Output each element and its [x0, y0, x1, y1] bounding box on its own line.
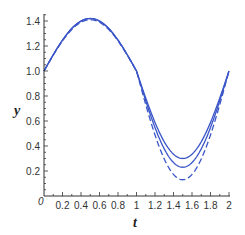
y-tick-label: 1.0 [26, 66, 40, 77]
x-tick-label: 0.4 [74, 200, 88, 211]
series-line-dashed [44, 20, 229, 180]
y-tick-label: 1.2 [26, 41, 40, 52]
x-ticks: 0.20.40.60.811.21.41.61.82 [53, 192, 232, 211]
y-tick-label: 0.2 [26, 166, 40, 177]
x-tick-label: 0.6 [93, 200, 107, 211]
x-tick-label: 2 [226, 200, 232, 211]
origin-label: 0 [38, 196, 44, 207]
y-ticks: 0.20.40.60.81.01.21.4 [26, 15, 48, 190]
y-tick-label: 0.8 [26, 91, 40, 102]
y-tick-label: 1.4 [26, 16, 40, 27]
line-chart: 0.20.40.60.81.01.21.4 0.20.40.60.811.21.… [0, 0, 245, 235]
y-tick-label: 0.4 [26, 141, 40, 152]
y-tick-label: 0.6 [26, 116, 40, 127]
x-tick-label: 1 [134, 200, 140, 211]
x-tick-label: 1.6 [185, 200, 199, 211]
x-tick-label: 1.4 [167, 200, 181, 211]
x-tick-label: 1.2 [148, 200, 162, 211]
y-axis-label: y [12, 103, 21, 118]
x-tick-label: 1.8 [204, 200, 218, 211]
x-tick-label: 0.2 [56, 200, 70, 211]
x-tick-label: 0.8 [111, 200, 125, 211]
series-line-solid-lower [44, 19, 229, 168]
plot-area [44, 19, 229, 180]
series-line-solid-upper [44, 19, 229, 159]
x-axis-label: t [133, 215, 138, 230]
